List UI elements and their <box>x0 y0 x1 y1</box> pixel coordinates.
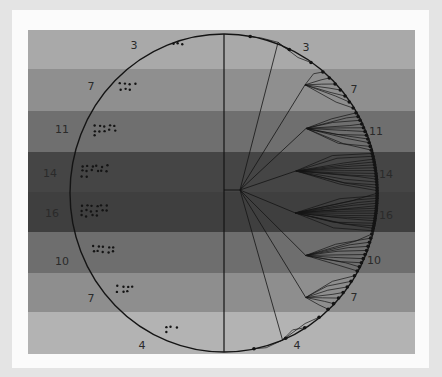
left-count-label: 14 <box>43 167 57 180</box>
cluster-point <box>100 204 102 206</box>
cluster-point <box>181 43 183 45</box>
left-count-label: 11 <box>55 123 69 136</box>
cluster-point <box>131 285 133 287</box>
cluster-point <box>109 124 111 126</box>
cluster-point <box>85 170 87 172</box>
cluster-point <box>99 125 101 127</box>
cluster-point <box>126 290 128 292</box>
left-count-label: 3 <box>131 39 138 52</box>
cluster-point <box>98 130 100 132</box>
right-count-label: 14 <box>379 168 393 181</box>
cluster-point <box>95 165 97 167</box>
cluster-point <box>134 83 136 85</box>
cluster-point <box>96 210 98 212</box>
cluster-point <box>80 214 82 216</box>
cluster-point <box>80 210 82 212</box>
cluster-point <box>90 210 92 212</box>
cluster-point <box>122 286 124 288</box>
cluster-point <box>127 286 129 288</box>
cluster-point <box>106 204 108 206</box>
cluster-point <box>105 170 107 172</box>
cluster-point <box>93 124 95 126</box>
cluster-point <box>116 291 118 293</box>
left-count-label: 10 <box>55 255 69 268</box>
cluster-point <box>93 134 95 136</box>
cluster-point <box>112 250 114 252</box>
cluster-point <box>91 214 93 216</box>
cluster-point <box>128 83 130 85</box>
cluster-point <box>101 209 103 211</box>
cluster-point <box>96 205 98 207</box>
right-count-label: 7 <box>351 83 358 96</box>
cluster-point <box>124 82 126 84</box>
cluster-point <box>116 285 118 287</box>
cluster-point <box>103 130 105 132</box>
cluster-point <box>96 250 98 252</box>
cluster-point <box>112 246 114 248</box>
cluster-point <box>119 82 121 84</box>
right-count-label: 3 <box>303 41 310 54</box>
left-count-label: 16 <box>45 207 59 220</box>
cluster-point <box>90 205 92 207</box>
cluster-point <box>102 246 104 248</box>
cluster-point <box>129 89 131 91</box>
cluster-point <box>108 128 110 130</box>
cluster-point <box>113 125 115 127</box>
cluster-point <box>102 251 104 253</box>
cluster-point <box>103 125 105 127</box>
cluster-point <box>124 88 126 90</box>
cluster-point <box>94 130 96 132</box>
cluster-point <box>122 291 124 293</box>
cluster-point <box>86 165 88 167</box>
cluster-point <box>165 326 167 328</box>
cluster-point <box>100 170 102 172</box>
cluster-point <box>86 204 88 206</box>
left-count-label: 7 <box>88 80 95 93</box>
cluster-point <box>85 209 87 211</box>
right-count-label: 11 <box>369 125 383 138</box>
cluster-point <box>80 175 82 177</box>
left-count-label: 4 <box>139 339 146 352</box>
cluster-point <box>91 169 93 171</box>
circle-tree-diagram: 371114161074371114161074 <box>0 0 442 377</box>
cluster-point <box>105 209 107 211</box>
point-clusters <box>80 42 183 333</box>
right-count-label: 4 <box>294 339 301 352</box>
cluster-point <box>98 245 100 247</box>
left-count-label: 7 <box>88 292 95 305</box>
cluster-point <box>119 89 121 91</box>
cluster-point <box>97 170 99 172</box>
cluster-point <box>92 245 94 247</box>
cluster-point <box>165 331 167 333</box>
cluster-point <box>92 165 94 167</box>
cluster-point <box>96 214 98 216</box>
right-count-label: 10 <box>367 254 381 267</box>
cluster-point <box>169 326 171 328</box>
cluster-point <box>114 129 116 131</box>
cluster-point <box>107 251 109 253</box>
right-count-label: 16 <box>379 209 393 222</box>
cluster-point <box>81 169 83 171</box>
cluster-point <box>93 250 95 252</box>
cluster-point <box>106 164 108 166</box>
cluster-point <box>81 165 83 167</box>
cluster-point <box>108 246 110 248</box>
cluster-point <box>176 326 178 328</box>
right-count-label: 7 <box>351 291 358 304</box>
cluster-point <box>81 205 83 207</box>
cluster-point <box>86 176 88 178</box>
cluster-point <box>85 215 87 217</box>
cluster-point <box>101 166 103 168</box>
